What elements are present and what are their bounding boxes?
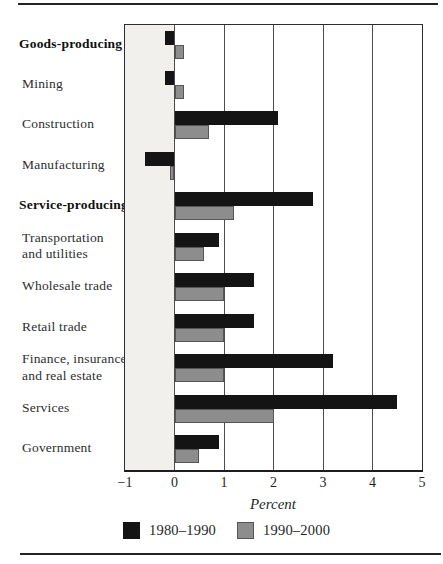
category-label-government: Government xyxy=(22,440,91,457)
legend-label-1980-1990: 1980–1990 xyxy=(149,522,216,539)
category-label-wholesale-trade: Wholesale trade xyxy=(22,278,112,295)
top-rule xyxy=(18,3,438,5)
bar-1980-1990-retail-trade xyxy=(175,314,254,328)
x-tick-0: 0 xyxy=(171,475,178,491)
bar-1980-1990-goods-producing xyxy=(165,31,175,45)
category-label-line: and real estate xyxy=(22,367,130,384)
category-label-retail-trade: Retail trade xyxy=(22,318,87,335)
bar-1990-2000-manufacturing xyxy=(170,166,175,180)
negative-region-shading xyxy=(125,25,175,470)
bar-1990-2000-transportation-and-utilities xyxy=(175,247,205,261)
category-label-mining: Mining xyxy=(22,76,63,93)
bar-1980-1990-construction xyxy=(175,111,279,125)
category-label-line: Mining xyxy=(22,76,63,93)
x-tick-1: 1 xyxy=(221,475,228,491)
category-label-goods-producing: Goods-producing xyxy=(19,35,122,52)
legend-item-1990-2000: 1990–2000 xyxy=(237,522,330,539)
bar-1990-2000-mining xyxy=(175,85,185,99)
bar-1980-1990-wholesale-trade xyxy=(175,273,254,287)
bar-1980-1990-services xyxy=(175,395,398,409)
category-label-manufacturing: Manufacturing xyxy=(22,157,105,174)
category-label-service-producing: Service-producing xyxy=(19,197,128,214)
category-label-line: Government xyxy=(22,440,91,457)
legend-label-1990-2000: 1990–2000 xyxy=(263,522,330,539)
bar-1990-2000-wholesale-trade xyxy=(175,287,225,301)
legend-swatch-1990-2000 xyxy=(237,522,254,539)
bottom-rule xyxy=(20,553,441,555)
category-label-line: Finance, insurance, xyxy=(22,351,130,368)
bar-1990-2000-finance-insurance-and-real-estate xyxy=(175,368,225,382)
category-label-finance-insurance-and-real-estate: Finance, insurance,and real estate xyxy=(22,351,130,384)
bar-1990-2000-services xyxy=(175,409,274,423)
bar-1980-1990-service-producing xyxy=(175,192,314,206)
category-label-services: Services xyxy=(22,399,69,416)
category-label-line: Goods-producing xyxy=(19,35,122,52)
category-label-line: and utilities xyxy=(22,246,104,263)
bar-1990-2000-retail-trade xyxy=(175,328,225,342)
category-label-line: Wholesale trade xyxy=(22,278,112,295)
bar-1980-1990-government xyxy=(175,435,220,449)
bar-1980-1990-mining xyxy=(165,71,175,85)
x-tick-5: 5 xyxy=(419,475,426,491)
x-tick-3: 3 xyxy=(320,475,327,491)
category-label-line: Transportation xyxy=(22,229,104,246)
legend-item-1980-1990: 1980–1990 xyxy=(123,522,216,539)
bar-1990-2000-government xyxy=(175,449,200,463)
x-tick-2: 2 xyxy=(270,475,277,491)
category-label-transportation-and-utilities: Transportationand utilities xyxy=(22,229,104,262)
bar-1990-2000-service-producing xyxy=(175,206,234,220)
bar-1980-1990-finance-insurance-and-real-estate xyxy=(175,354,333,368)
category-label-construction: Construction xyxy=(22,116,94,133)
category-label-line: Service-producing xyxy=(19,197,128,214)
category-label-line: Manufacturing xyxy=(22,157,105,174)
category-label-line: Construction xyxy=(22,116,94,133)
bar-1990-2000-construction xyxy=(175,125,210,139)
plot-area xyxy=(124,24,423,472)
bar-1980-1990-transportation-and-utilities xyxy=(175,233,220,247)
legend-swatch-1980-1990 xyxy=(123,522,140,539)
x-axis-title: Percent xyxy=(223,496,323,513)
legend: 1980–1990 1990–2000 xyxy=(123,522,330,539)
figure: Goods-producingMiningConstructionManufac… xyxy=(0,0,443,564)
x-tick--1: −1 xyxy=(118,475,133,491)
x-tick-4: 4 xyxy=(369,475,376,491)
category-label-line: Retail trade xyxy=(22,318,87,335)
bar-1980-1990-manufacturing xyxy=(145,152,175,166)
category-label-line: Services xyxy=(22,399,69,416)
bar-1990-2000-goods-producing xyxy=(175,45,185,59)
